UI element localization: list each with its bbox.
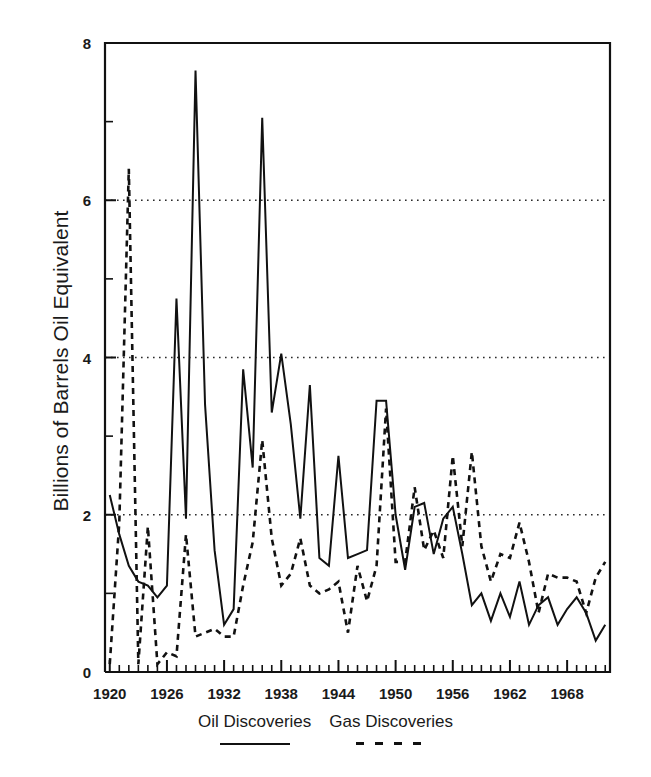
x-tick-label-1962: 1962 <box>493 685 526 702</box>
x-axis-ticks <box>110 660 605 672</box>
x-tick-label-1944: 1944 <box>322 685 356 702</box>
y-axis-ticks <box>105 43 116 672</box>
series-line-oil-discoveries <box>110 71 605 641</box>
legend-entry-gas: Gas Discoveries <box>329 712 453 747</box>
x-tick-label-1920: 1920 <box>93 685 126 702</box>
chart-legend: Oil Discoveries Gas Discoveries <box>0 712 651 747</box>
legend-label-gas: Gas Discoveries <box>329 712 453 732</box>
x-tick-label-1968: 1968 <box>550 685 583 702</box>
y-tick-label-2: 2 <box>83 507 91 524</box>
series-line-gas-discoveries <box>110 169 605 664</box>
x-axis-tick-labels: 192019261932193819441950195619621968 <box>93 685 584 702</box>
chart-figure: Billions of Barrels Oil Equivalent 02468… <box>0 0 651 777</box>
data-series <box>110 71 605 665</box>
y-tick-label-6: 6 <box>83 192 91 209</box>
legend-entry-oil: Oil Discoveries <box>198 712 311 747</box>
gridlines <box>105 200 610 515</box>
legend-label-oil: Oil Discoveries <box>198 712 311 732</box>
x-tick-label-1938: 1938 <box>265 685 298 702</box>
y-tick-label-0: 0 <box>83 664 91 681</box>
x-tick-label-1950: 1950 <box>379 685 412 702</box>
x-tick-label-1956: 1956 <box>436 685 469 702</box>
y-tick-label-4: 4 <box>83 350 92 367</box>
legend-swatch-gas-dashed-line <box>356 741 426 747</box>
legend-swatch-oil-solid-line <box>220 741 290 747</box>
x-tick-label-1926: 1926 <box>150 685 183 702</box>
y-axis-tick-labels: 02468 <box>83 35 92 681</box>
y-tick-label-8: 8 <box>83 35 91 52</box>
plot-area: 02468 1920192619321938194419501956196219… <box>0 0 651 777</box>
x-tick-label-1932: 1932 <box>207 685 240 702</box>
